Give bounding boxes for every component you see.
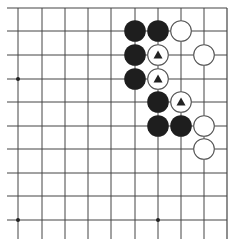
white-stone — [171, 92, 192, 113]
white-stone — [194, 116, 215, 137]
star-point — [156, 218, 160, 222]
black-stone — [124, 20, 146, 42]
white-stone — [194, 139, 215, 160]
black-stone — [147, 91, 169, 113]
stones-layer — [124, 20, 214, 159]
go-board — [0, 0, 233, 239]
black-stone — [147, 115, 169, 137]
black-stone — [124, 44, 146, 66]
white-stone — [194, 45, 215, 66]
black-stone — [147, 20, 169, 42]
white-stone — [148, 69, 169, 90]
white-stone — [171, 21, 192, 42]
black-stone — [170, 115, 192, 137]
star-point — [16, 77, 20, 81]
star-point — [16, 218, 20, 222]
white-stone — [148, 45, 169, 66]
black-stone — [124, 68, 146, 90]
